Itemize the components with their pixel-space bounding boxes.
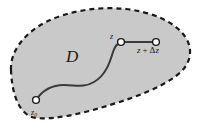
complex-domain-figure: D z z0 z+Δz — [0, 0, 197, 133]
point-marker-z0 — [33, 97, 40, 104]
figure-canvas — [0, 0, 197, 133]
point-marker-z-plus-delta-z — [153, 39, 160, 46]
point-marker-z — [118, 39, 125, 46]
